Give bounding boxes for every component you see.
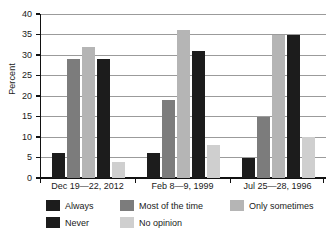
x-axis-label: Dec 19—22, 2012 — [40, 181, 135, 191]
bar — [177, 30, 190, 178]
legend-label: No opinion — [139, 218, 182, 228]
legend-item[interactable]: Always — [46, 200, 120, 211]
y-tick-mark — [36, 34, 40, 35]
x-axis-labels: Dec 19—22, 2012Feb 8—9, 1999Jul 25—28, 1… — [40, 181, 325, 191]
bar — [97, 59, 110, 178]
bar — [147, 153, 160, 178]
y-tick-label: 10 — [0, 133, 32, 142]
x-axis: Dec 19—22, 2012Feb 8—9, 1999Jul 25—28, 1… — [40, 178, 325, 194]
bar-group — [41, 14, 136, 178]
legend-swatch — [46, 217, 60, 228]
y-tick-mark — [36, 13, 40, 14]
bar-group — [136, 14, 231, 178]
legend-swatch — [120, 217, 134, 228]
y-tick-label: 20 — [0, 92, 32, 101]
legend-item[interactable]: Never — [46, 217, 120, 228]
bar — [287, 35, 300, 179]
bar — [272, 35, 285, 179]
bar — [257, 117, 270, 179]
legend-label: Never — [65, 218, 89, 228]
plot-wrapper: 0510152025303540 — [40, 14, 325, 178]
bar — [302, 137, 315, 178]
y-tick-mark — [36, 157, 40, 158]
bar-chart: Percent 0510152025303540 Dec 19—22, 2012… — [0, 0, 331, 246]
y-tick-label: 40 — [0, 10, 32, 19]
legend-swatch — [46, 200, 60, 211]
y-tick-mark — [36, 136, 40, 137]
bar — [67, 59, 80, 178]
legend-swatch — [120, 200, 134, 211]
y-tick-label: 25 — [0, 71, 32, 80]
bar-groups — [41, 14, 326, 178]
y-tick-mark — [36, 116, 40, 117]
y-tick-mark — [36, 54, 40, 55]
bar — [52, 153, 65, 178]
y-tick-label: 15 — [0, 112, 32, 121]
legend-label: Most of the time — [139, 201, 203, 211]
bar — [192, 51, 205, 178]
bar — [82, 47, 95, 178]
bar — [112, 162, 125, 178]
legend-item[interactable]: Most of the time — [120, 200, 230, 211]
x-axis-label: Feb 8—9, 1999 — [135, 181, 230, 191]
bar — [162, 100, 175, 178]
y-tick-label: 0 — [0, 174, 32, 183]
bar-group — [231, 14, 326, 178]
legend-label: Only sometimes — [249, 201, 314, 211]
legend-label: Always — [65, 201, 94, 211]
plot-area — [40, 14, 325, 178]
legend-item[interactable]: Only sometimes — [230, 200, 326, 211]
legend-item[interactable]: No opinion — [120, 217, 230, 228]
bar — [207, 145, 220, 178]
bar — [242, 158, 255, 179]
y-tick-label: 35 — [0, 30, 32, 39]
y-tick-label: 5 — [0, 153, 32, 162]
y-tick-mark — [36, 95, 40, 96]
x-axis-label: Jul 25—28, 1996 — [230, 181, 325, 191]
y-tick-mark — [36, 75, 40, 76]
chart-legend: AlwaysMost of the timeOnly sometimesNeve… — [46, 200, 326, 228]
y-tick-label: 30 — [0, 51, 32, 60]
legend-swatch — [230, 200, 244, 211]
